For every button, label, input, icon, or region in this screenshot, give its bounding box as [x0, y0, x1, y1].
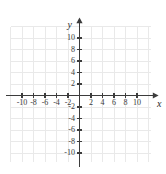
y-tick-label: 6 — [71, 57, 75, 65]
x-tick-label: 6 — [112, 99, 116, 107]
coordinate-plane: y x -10-8-6-4-2246810108642-2-4-6-8-10 — [0, 0, 166, 174]
x-tick-label: -10 — [17, 99, 28, 107]
y-tick-label: -8 — [68, 138, 75, 146]
y-tick-label: 4 — [71, 69, 75, 77]
y-tick-label: -2 — [68, 103, 75, 111]
y-tick-label: 2 — [71, 80, 75, 88]
x-tick-label: -6 — [42, 99, 49, 107]
y-axis-label: y — [68, 20, 72, 30]
y-tick-label: -6 — [68, 126, 75, 134]
y-tick-label: -4 — [68, 115, 75, 123]
y-tick-label: -10 — [64, 149, 75, 157]
x-tick-label: -8 — [30, 99, 37, 107]
y-axis-arrowhead — [76, 18, 82, 24]
axis-lines — [6, 21, 156, 167]
coordinate-grid-svg — [0, 0, 166, 174]
x-tick-label: -4 — [53, 99, 60, 107]
y-tick-label: 8 — [71, 46, 75, 54]
x-tick-label: 2 — [89, 99, 93, 107]
x-tick-label: 8 — [124, 99, 128, 107]
x-tick-label: 4 — [101, 99, 105, 107]
x-axis-label: x — [157, 99, 161, 109]
x-tick-label: 10 — [133, 99, 141, 107]
y-tick-label: 10 — [67, 34, 75, 42]
axis-arrowheads — [76, 18, 158, 99]
